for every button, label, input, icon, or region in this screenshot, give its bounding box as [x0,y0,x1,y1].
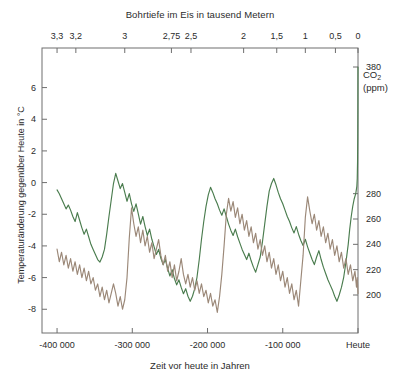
bottom-axis-title: Zeit vor heute in Jahren [0,360,400,371]
tick-label-left: 4 [8,115,36,124]
climate-chart-figure: Bohrtiefe im Eis in tausend Metern Zeit … [0,0,400,383]
tick-label-right: 260 [366,215,381,224]
tick-label-left: 6 [8,83,36,92]
tick-label-right: 240 [366,240,381,249]
tick-label-left: -8 [8,305,36,314]
tick-label-top: 1 [303,32,308,41]
tick-label-bottom: -200 000 [190,341,226,350]
tick-label-top: 0 [355,32,360,41]
plot-area [0,0,400,383]
data-series-layer [57,67,358,312]
tick-label-bottom: -300 000 [115,341,151,350]
co2-subscript: 2 [377,74,381,81]
tick-label-left: -4 [8,241,36,250]
tick-label-bottom: -100 000 [265,341,301,350]
series-line-co2 [57,67,358,301]
tick-label-top: 0,5 [329,32,342,41]
tick-label-left: -2 [8,210,36,219]
tick-label-top: 2,5 [185,32,198,41]
tick-label-top: 2 [241,32,246,41]
tick-label-top: 2,75 [163,32,181,41]
tick-label-right: 380 [366,63,381,72]
series-line-temperatur [57,197,358,313]
tick-label-top: 3,3 [51,32,64,41]
ppm-text: (ppm) [363,82,388,93]
tick-label-bottom: -400 000 [39,341,75,350]
tick-label-bottom: Heute [346,341,370,350]
tick-label-left: 0 [8,178,36,187]
tick-label-top: 3 [122,32,127,41]
right-axis-unit-label: CO2 (ppm) [363,69,388,93]
tick-label-left: 2 [8,146,36,155]
tick-label-left: -6 [8,273,36,282]
tick-label-right: 280 [366,189,381,198]
tick-label-right: 220 [366,265,381,274]
tick-label-right: 200 [366,291,381,300]
top-axis-title: Bohrtiefe im Eis in tausend Metern [0,9,400,20]
tick-label-top: 3,2 [70,32,83,41]
tick-label-top: 1,5 [270,32,283,41]
